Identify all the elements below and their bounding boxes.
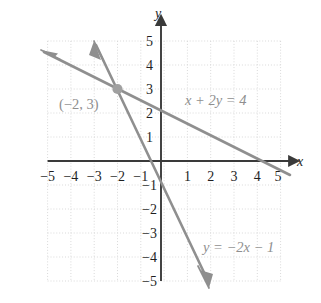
- x-tick-label: 4: [254, 169, 261, 184]
- equation-label-line1: x + 2y = 4: [184, 92, 246, 108]
- x-tick-label: −3: [87, 169, 102, 184]
- line-x-plus-2y-equals-4: [41, 50, 290, 175]
- intersection-point-marker: [112, 84, 122, 94]
- y-tick-label: 2: [146, 106, 153, 121]
- y-tick-label: 1: [146, 130, 153, 145]
- y-tick-label: 5: [146, 34, 153, 49]
- x-tick-label: −5: [40, 169, 55, 184]
- y-tick-label: 4: [146, 58, 153, 73]
- x-tick-label: −2: [110, 169, 125, 184]
- x-tick-label: −4: [63, 169, 78, 184]
- y-tick-label: −4: [142, 250, 157, 265]
- y-tick-label: 3: [146, 82, 153, 97]
- coordinate-plane: x y −5 −4 −3 −2 −1 1 2 3 4 5 5 4 3 2 1 −…: [0, 0, 321, 303]
- y-tick-label: −3: [142, 226, 157, 241]
- y-tick-label: −1: [142, 178, 157, 193]
- graph-figure: x y −5 −4 −3 −2 −1 1 2 3 4 5 5 4 3 2 1 −…: [0, 0, 321, 303]
- y-axis-label: y: [153, 6, 162, 21]
- x-tick-label: 2: [207, 169, 214, 184]
- y-tick-label: −5: [142, 274, 157, 289]
- equation-label-line2: y = −2x − 1: [201, 239, 274, 255]
- x-tick-label: 3: [231, 169, 238, 184]
- intersection-point-label: (−2, 3): [59, 96, 99, 113]
- x-tick-label: 1: [184, 169, 191, 184]
- x-axis-label: x: [296, 154, 304, 169]
- y-tick-label: −2: [142, 202, 157, 217]
